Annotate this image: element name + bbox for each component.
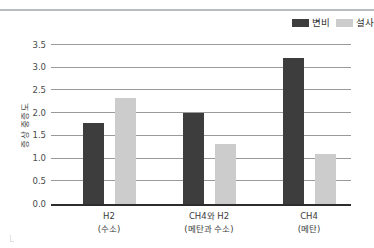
bar-group [269,45,349,204]
y-axis-tick-label: 0.5 [32,177,46,186]
y-axis-tick-label: 1.0 [32,154,46,163]
bar-group [169,45,249,204]
y-axis-title-text: 증상 중증도 [21,103,30,148]
category-sublabel: (메탄) [254,223,364,236]
plot-area: 0.00.51.01.52.02.53.03.5 [51,45,351,206]
x-axis-category-label: CH4와 H2(메탄과 수소) [154,210,264,235]
x-axis-category-labels: H2(수소)CH4와 H2(메탄과 수소)CH4(메탄) [51,210,351,246]
bar-constipation[interactable] [283,58,304,204]
legend-item-series-1[interactable]: 설사 [336,18,374,28]
y-axis-title: 증상 중증도 [18,45,32,206]
bars-layer [51,45,351,206]
y-axis-tick-label: 3.0 [32,63,46,72]
bar-diarrhea[interactable] [115,98,136,204]
legend-label: 설사 [356,18,374,28]
category-sublabel: (수소) [54,223,164,236]
y-axis-tick-label: 1.5 [32,132,46,141]
bar-constipation[interactable] [83,123,104,204]
x-axis-category-label: CH4(메탄) [254,210,364,235]
y-axis-tick-label: 2.0 [32,109,46,118]
legend-swatch-icon [292,19,309,27]
chart-legend: 변비 설사 [292,18,374,28]
legend-label: 변비 [312,18,330,28]
x-axis-category-label: H2(수소) [54,210,164,235]
legend-swatch-icon [336,19,353,27]
bar-constipation[interactable] [183,113,204,204]
category-name: H2 [103,211,115,221]
page-corner-mark [10,235,14,242]
category-name: CH4 [300,211,318,221]
bar-diarrhea[interactable] [315,154,336,204]
y-axis-tick-label: 0.0 [32,200,46,209]
y-axis-tick-label: 2.5 [32,86,46,95]
category-name: CH4와 H2 [189,211,229,221]
category-sublabel: (메탄과 수소) [154,223,264,236]
bar-diarrhea[interactable] [215,144,236,204]
y-axis-tick-label: 3.5 [32,41,46,50]
header-divider [0,9,374,11]
legend-item-series-0[interactable]: 변비 [292,18,330,28]
bar-group [69,45,149,204]
x-axis-line [51,204,351,206]
